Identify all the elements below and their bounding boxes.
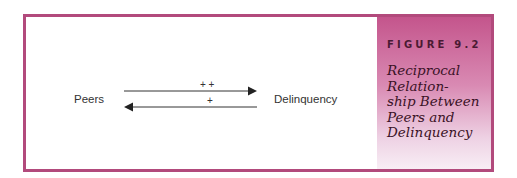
- figure-label: FIGURE 9.2: [387, 39, 482, 50]
- node-delinquency: Delinquency: [274, 93, 337, 105]
- arrow-delinquency-to-peers: [124, 103, 257, 112]
- edge-sign-backward: +: [207, 95, 213, 106]
- figure-title-line: Peers and: [387, 110, 491, 126]
- figure-title-line: ship Between: [387, 94, 491, 110]
- figure-title-line: Reciprocal: [387, 63, 491, 79]
- arrow-peers-to-delinquency: [124, 87, 257, 96]
- figure-title: Reciprocal Relation- ship Between Peers …: [387, 63, 491, 141]
- figure-title-line: Delinquency: [387, 125, 491, 141]
- reciprocal-arrows: [122, 83, 262, 113]
- caption-panel: FIGURE 9.2 Reciprocal Relation- ship Bet…: [377, 17, 491, 169]
- edge-sign-forward: + +: [200, 79, 214, 90]
- figure-title-line: Relation-: [387, 79, 491, 95]
- figure-frame: Peers Delinquency + + + FIGURE 9.2 Recip…: [23, 14, 494, 172]
- node-peers: Peers: [74, 93, 104, 105]
